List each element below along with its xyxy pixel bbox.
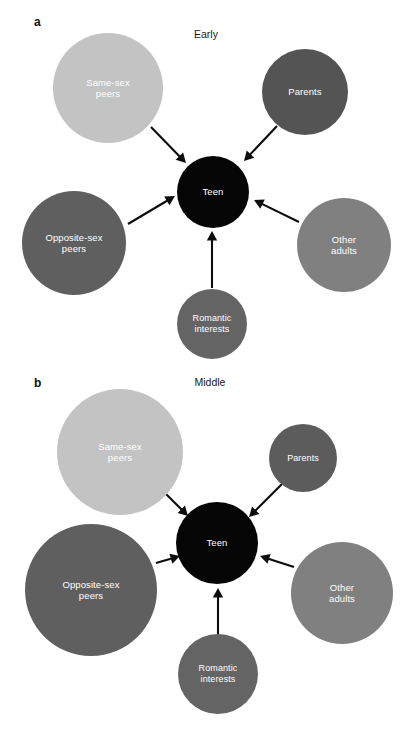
- arrow-other-adults-to-teen: [260, 554, 294, 567]
- node-opposite-sex-peers[interactable]: Opposite-sex peers: [22, 191, 126, 295]
- node-label-opposite-sex-peers: Opposite-sex peers: [59, 579, 122, 601]
- node-label-teen: Teen: [199, 186, 226, 197]
- node-label-teen: Teen: [203, 537, 230, 548]
- node-label-opposite-sex-peers: Opposite-sex peers: [42, 232, 105, 254]
- node-label-same-sex-peers: Same-sex peers: [83, 77, 133, 99]
- arrow-same-sex-peers-to-teen: [151, 127, 186, 163]
- node-parents[interactable]: Parents: [269, 424, 337, 492]
- node-label-romantic-interests: Romantic interests: [196, 663, 241, 684]
- panel-a-title: Early: [194, 29, 218, 40]
- arrow-romantic-interests-to-teen: [207, 231, 217, 288]
- panel-b-title: Middle: [195, 377, 226, 388]
- node-other-adults[interactable]: Other adults: [291, 542, 393, 644]
- arrow-opposite-sex-peers-to-teen: [128, 196, 175, 224]
- node-other-adults[interactable]: Other adults: [297, 198, 391, 292]
- node-opposite-sex-peers[interactable]: Opposite-sex peers: [25, 524, 157, 656]
- node-label-same-sex-peers: Same-sex peers: [95, 441, 145, 463]
- panel-b: b Middle Same-sex peersParentsOpposite-s…: [0, 366, 410, 732]
- node-label-other-adults: Other adults: [326, 582, 358, 604]
- node-teen[interactable]: Teen: [176, 502, 258, 584]
- arrow-parents-to-teen: [249, 484, 282, 517]
- arrow-parents-to-teen: [244, 126, 277, 161]
- panel-b-letter: b: [34, 377, 41, 389]
- node-same-sex-peers[interactable]: Same-sex peers: [53, 33, 163, 143]
- arrow-other-adults-to-teen: [254, 200, 299, 222]
- node-romantic-interests[interactable]: Romantic interests: [178, 634, 258, 714]
- node-romantic-interests[interactable]: Romantic interests: [177, 289, 247, 359]
- panel-a-letter: a: [34, 16, 41, 28]
- arrow-romantic-interests-to-teen: [213, 588, 223, 637]
- node-parents[interactable]: Parents: [262, 49, 348, 135]
- node-label-romantic-interests: Romantic interests: [190, 313, 235, 334]
- panel-a: a Early Same-sex peersParentsOpposite-se…: [0, 0, 410, 366]
- node-teen[interactable]: Teen: [177, 156, 249, 228]
- node-label-parents: Parents: [285, 86, 324, 97]
- node-label-other-adults: Other adults: [328, 234, 360, 256]
- node-same-sex-peers[interactable]: Same-sex peers: [57, 389, 183, 515]
- arrow-same-sex-peers-to-teen: [166, 494, 188, 516]
- figure-social-network-diagram: a Early Same-sex peersParentsOpposite-se…: [0, 0, 410, 732]
- arrow-opposite-sex-peers-to-teen: [156, 554, 180, 564]
- node-label-parents: Parents: [284, 453, 322, 464]
